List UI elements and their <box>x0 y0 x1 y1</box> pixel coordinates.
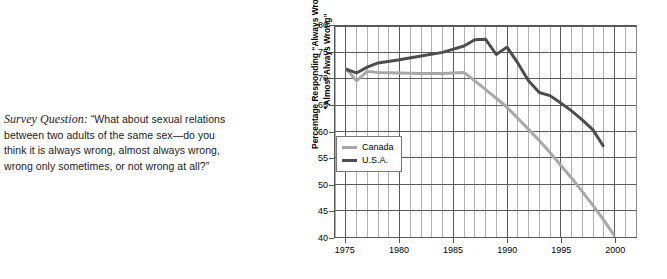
x-tick-mark <box>561 238 562 243</box>
legend-label: Canada <box>362 141 394 154</box>
x-tick-label: 1975 <box>323 245 367 255</box>
legend-label: U.S.A. <box>362 154 388 167</box>
x-tick-mark <box>399 238 400 243</box>
plot-area <box>334 25 637 238</box>
series-line-usa <box>346 39 604 147</box>
legend-color-swatch <box>342 146 357 149</box>
y-tick-label: 45 <box>298 206 328 216</box>
chart-legend: CanadaU.S.A. <box>336 136 402 172</box>
y-tick-label: 50 <box>298 180 328 190</box>
legend-item-usa: U.S.A. <box>342 154 394 167</box>
y-tick-label: 60 <box>298 127 328 137</box>
x-tick-mark <box>615 238 616 243</box>
y-tick-label: 55 <box>298 153 328 163</box>
x-tick-label: 1995 <box>539 245 583 255</box>
x-tick-mark <box>345 238 346 243</box>
survey-question-caption: Survey Question: “What about sexual rela… <box>4 112 240 174</box>
caption-lead-label: Survey Question: <box>4 112 88 126</box>
y-tick-label: 65 <box>298 100 328 110</box>
legend-item-canada: Canada <box>342 141 394 154</box>
x-tick-label: 2000 <box>593 245 637 255</box>
legend-color-swatch <box>342 159 357 162</box>
y-tick-mark <box>329 238 334 239</box>
line-chart-figure: Percentage Responding “Always Wrong” or … <box>282 0 667 279</box>
x-tick-label: 1985 <box>431 245 475 255</box>
data-series-layer <box>335 26 636 237</box>
x-tick-mark <box>453 238 454 243</box>
y-tick-label: 80 <box>298 20 328 30</box>
y-tick-label: 40 <box>298 233 328 243</box>
y-tick-label: 75 <box>298 47 328 57</box>
x-tick-mark <box>507 238 508 243</box>
y-tick-label: 70 <box>298 73 328 83</box>
x-tick-label: 1990 <box>485 245 529 255</box>
x-tick-label: 1980 <box>377 245 421 255</box>
